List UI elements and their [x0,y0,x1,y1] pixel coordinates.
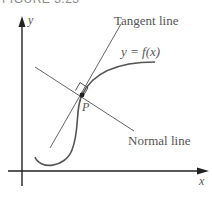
y-axis [19,16,26,186]
point-p-marker [80,93,85,98]
curve-label: y = f(x) [119,44,160,59]
y-axis-arrow-icon [19,16,26,27]
y-axis-label: y [27,13,34,27]
point-p-label: P [81,100,90,114]
curve-f [35,62,155,165]
x-axis [8,168,209,175]
normal-line-label: Normal line [128,133,191,148]
x-axis-label: x [198,174,205,188]
normal-line [35,67,134,131]
tangent-line-label: Tangent line [114,13,179,28]
diagram-canvas: y x Tangent line y = f(x) P Normal line [0,0,212,198]
tangent-normal-figure: FIGURE 3.23 y x Tangent line y = f(x) P … [0,0,212,198]
